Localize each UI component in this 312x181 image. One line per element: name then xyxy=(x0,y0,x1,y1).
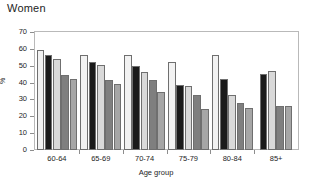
y-tick-label: 40 xyxy=(19,79,27,87)
y-tick-mark xyxy=(30,32,34,33)
y-tick-mark xyxy=(30,133,34,134)
bar xyxy=(245,108,253,150)
bar xyxy=(193,95,201,150)
bar xyxy=(45,55,53,150)
x-tick-mark xyxy=(79,150,80,154)
bar xyxy=(285,106,293,150)
bar xyxy=(220,79,228,150)
bar xyxy=(276,106,284,150)
bar xyxy=(97,65,105,150)
bars-layer xyxy=(35,32,298,150)
bar xyxy=(70,79,78,150)
y-tick-label: 60 xyxy=(19,45,27,53)
x-tick-label: 75-79 xyxy=(179,155,198,163)
bar xyxy=(124,55,132,150)
y-tick-label: 50 xyxy=(19,62,27,70)
x-tick-mark xyxy=(167,150,168,154)
bar xyxy=(141,72,149,150)
bar xyxy=(80,55,88,150)
x-axis-title: Age group xyxy=(0,168,312,177)
bar xyxy=(201,109,209,150)
y-tick-label: 10 xyxy=(19,129,27,137)
bar xyxy=(105,80,113,150)
x-tick-label: 80-84 xyxy=(223,155,242,163)
y-tick-label: 70 xyxy=(19,28,27,36)
bar xyxy=(268,71,276,150)
bar xyxy=(114,84,122,150)
bar xyxy=(260,74,268,150)
bar xyxy=(61,75,69,150)
bar xyxy=(228,95,236,150)
bar xyxy=(149,80,157,150)
bar xyxy=(185,86,193,150)
x-tick-label: 65-69 xyxy=(91,155,110,163)
y-tick-label: 20 xyxy=(19,113,27,121)
y-tick-label: 0 xyxy=(23,146,27,154)
bar xyxy=(132,66,140,150)
y-tick-mark xyxy=(30,66,34,67)
bar xyxy=(168,62,176,151)
y-axis-ticks: 010203040506070 xyxy=(0,0,34,181)
y-tick-mark xyxy=(30,116,34,117)
y-tick-mark xyxy=(30,83,34,84)
bar xyxy=(157,92,165,150)
y-tick-mark xyxy=(30,150,34,151)
y-tick-mark xyxy=(30,99,34,100)
x-tick-label: 60-64 xyxy=(47,155,66,163)
bar xyxy=(53,59,61,150)
bar xyxy=(89,62,97,150)
x-tick-mark xyxy=(123,150,124,154)
bar xyxy=(37,50,45,150)
y-tick-mark xyxy=(30,49,34,50)
chart-container: Women % 010203040506070 60-6465-6970-747… xyxy=(0,0,312,181)
x-tick-mark xyxy=(210,150,211,154)
x-tick-label: 70-74 xyxy=(135,155,154,163)
x-tick-mark xyxy=(254,150,255,154)
bar xyxy=(212,55,220,150)
x-tick-label: 85+ xyxy=(270,155,283,163)
bar xyxy=(237,103,245,150)
y-tick-label: 30 xyxy=(19,96,27,104)
bar xyxy=(176,85,184,150)
